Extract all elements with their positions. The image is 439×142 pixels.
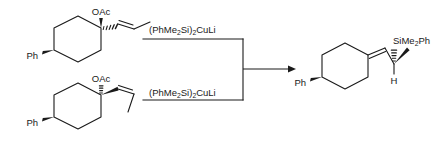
label-silyl-product: SiMe2Ph	[393, 35, 430, 47]
label-oac-bottom: OAc	[92, 73, 111, 84]
label-phenyl-product: Ph	[294, 77, 306, 88]
exo-alkene-b	[369, 52, 385, 59]
wedge-phenyl-top	[42, 50, 54, 55]
reagent-bottom-formula: (PhMe2Si)2CuLi	[149, 87, 216, 99]
reactant-bottom-structure	[54, 83, 134, 129]
arrow-head	[288, 66, 296, 73]
cyclohexane-ring-top	[54, 16, 101, 62]
hash-silyl-product	[391, 50, 396, 61]
wedge-oac-top	[99, 18, 103, 28]
cyclohexane-ring-bottom	[54, 83, 101, 129]
cyclohexane-ring-product	[322, 43, 368, 89]
reactant-top-structure	[54, 16, 150, 62]
wedge-phenyl-product	[310, 77, 322, 82]
wedge-phenyl-bottom	[42, 117, 54, 122]
hash-oac-bottom	[99, 86, 103, 93]
reaction-arrow	[243, 66, 296, 73]
reaction-scheme: OAc Ph OAc Ph	[0, 0, 439, 142]
label-oac-top: OAc	[92, 6, 111, 17]
alkene-double-b-top	[119, 21, 133, 26]
reagent-top-formula: (PhMe2Si)2CuLi	[149, 24, 216, 36]
methyl-bond-top	[134, 22, 150, 29]
hash-alkenyl-top	[103, 24, 117, 30]
wedge-alkenyl-bottom	[101, 87, 119, 95]
scheme-canvas: OAc Ph OAc Ph	[0, 0, 439, 142]
label-phenyl-top: Ph	[26, 50, 38, 61]
exo-alkene-a	[368, 48, 385, 55]
methyl-bond-bottom	[128, 94, 134, 112]
label-phenyl-bottom: Ph	[26, 117, 38, 128]
label-hydrogen-product: H	[391, 75, 398, 86]
